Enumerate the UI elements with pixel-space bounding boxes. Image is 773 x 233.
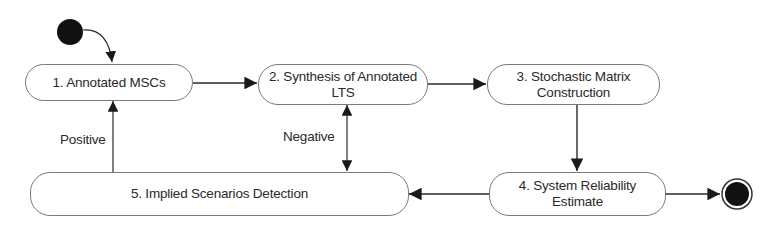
final-state-icon — [725, 182, 749, 206]
node-label: 2. Synthesis of Annotated LTS — [269, 69, 417, 101]
initial-state-icon — [57, 19, 83, 45]
node-system-reliability-estimate[interactable]: 4. System Reliability Estimate — [489, 172, 666, 216]
node-annotated-mscs[interactable]: 1. Annotated MSCs — [25, 64, 193, 101]
node-label: 3. Stochastic Matrix Construction — [517, 69, 631, 101]
activity-diagram: 1. Annotated MSCs 2. Synthesis of Annota… — [0, 0, 773, 233]
node-label: 5. Implied Scenarios Detection — [131, 186, 308, 202]
node-synthesis-annotated-lts[interactable]: 2. Synthesis of Annotated LTS — [258, 64, 428, 105]
node-stochastic-matrix-construction[interactable]: 3. Stochastic Matrix Construction — [487, 64, 660, 105]
node-label: 4. System Reliability Estimate — [519, 178, 636, 210]
node-implied-scenarios-detection[interactable]: 5. Implied Scenarios Detection — [30, 172, 409, 216]
node-label: 1. Annotated MSCs — [53, 75, 166, 91]
edge-label-negative: Negative — [283, 129, 335, 144]
edge-start-to-1 — [83, 30, 112, 62]
edge-label-positive: Positive — [60, 132, 106, 147]
